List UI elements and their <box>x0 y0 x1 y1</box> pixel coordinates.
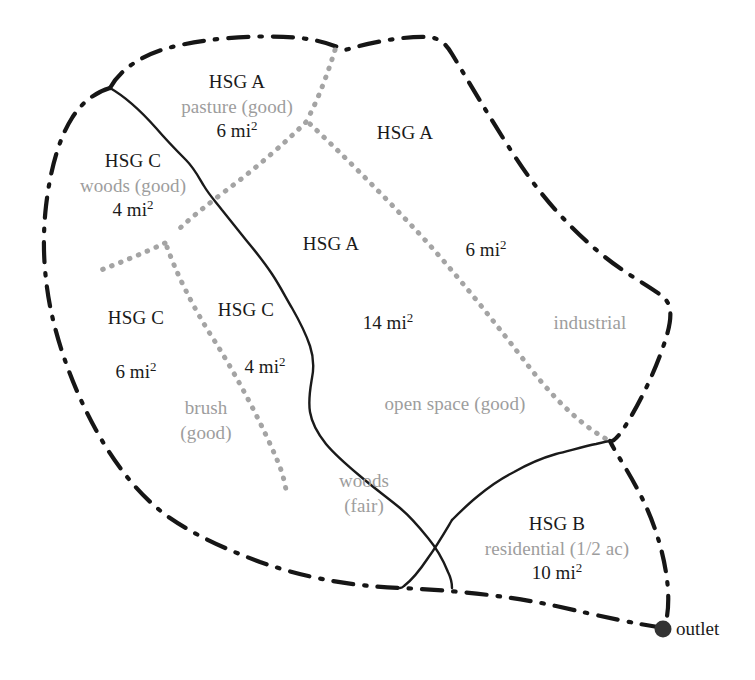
land-use-label-line2: (fair) <box>339 494 389 519</box>
subbasin-boundaries <box>96 50 608 490</box>
land-use-label-line2: (good) <box>180 421 231 446</box>
subarea-label-residential-b: HSG B residential (1/2 ac) 10 mi2 <box>485 512 629 586</box>
land-use-label-woods-fair: woods (fair) <box>339 469 389 518</box>
area-label: 4 mi2 <box>245 355 286 380</box>
hsg-label: HSG B <box>485 512 629 537</box>
subarea-area-industrial-a: 6 mi2 <box>466 238 507 263</box>
subarea-label-woods-fair-c: HSG C <box>218 298 274 323</box>
land-use-label: pasture (good) <box>181 95 293 120</box>
area-label: 6 mi2 <box>181 119 293 144</box>
outlet-marker-icon <box>655 621 672 638</box>
land-use-label: industrial <box>554 311 627 336</box>
land-use-label-line1: woods <box>339 469 389 494</box>
hsg-label: HSG C <box>218 298 274 323</box>
watershed-map-svg <box>0 0 755 680</box>
land-use-label-industrial: industrial <box>554 311 627 336</box>
area-label: 14 mi2 <box>363 311 413 336</box>
area-label: 6 mi2 <box>466 238 507 263</box>
land-use-label-brush: brush (good) <box>180 396 231 445</box>
land-use-label-open-space: open space (good) <box>385 392 526 417</box>
land-use-label: woods (good) <box>80 174 186 199</box>
land-use-label: residential (1/2 ac) <box>485 537 629 562</box>
stream-outlet-reach <box>400 520 452 588</box>
subbasin-line-left-west <box>96 243 165 272</box>
outlet-label: outlet <box>676 618 719 640</box>
hsg-label: HSG C <box>108 306 164 331</box>
hsg-label: HSG A <box>303 232 359 257</box>
subarea-label-open-space-a-hsg: HSG A <box>303 232 359 257</box>
land-use-label-line1: brush <box>180 396 231 421</box>
land-use-label: open space (good) <box>385 392 526 417</box>
area-label: 4 mi2 <box>80 198 186 223</box>
area-label: 10 mi2 <box>485 561 629 586</box>
subarea-label-industrial-a-hsg: HSG A <box>377 121 433 146</box>
subarea-label-pasture-a: HSG A pasture (good) 6 mi2 <box>181 70 293 144</box>
stream-tributary-east <box>452 441 610 520</box>
hsg-label: HSG A <box>377 121 433 146</box>
subarea-area-brush-c: 6 mi2 <box>116 360 157 385</box>
hsg-label: HSG A <box>181 70 293 95</box>
subarea-label-woods-c: HSG C woods (good) 4 mi2 <box>80 149 186 223</box>
hsg-label: HSG C <box>80 149 186 174</box>
subarea-area-open-space-a: 14 mi2 <box>363 311 413 336</box>
subbasin-line-upper-north <box>308 50 335 118</box>
watershed-diagram: HSG A pasture (good) 6 mi2 HSG C woods (… <box>0 0 755 680</box>
area-label: 6 mi2 <box>116 360 157 385</box>
subarea-label-brush-c: HSG C <box>108 306 164 331</box>
subarea-area-woods-fair-c: 4 mi2 <box>245 355 286 380</box>
